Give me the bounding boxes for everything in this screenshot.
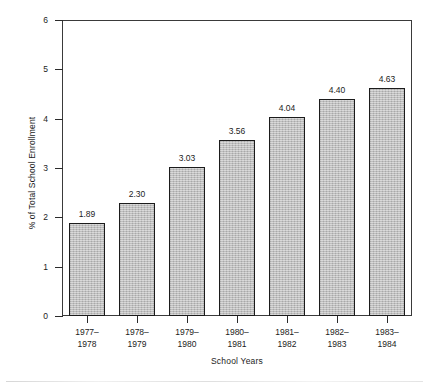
bar-value-label: 1.89 (56, 209, 118, 219)
y-axis-tick (55, 267, 63, 268)
y-axis-tick (55, 119, 63, 120)
bar (169, 167, 205, 316)
bar-value-label: 4.40 (306, 85, 368, 95)
bar-value-label: 4.04 (256, 103, 318, 113)
x-axis-tick (87, 316, 88, 323)
x-axis-tick (387, 316, 388, 323)
bar-value-label: 4.63 (356, 74, 418, 84)
y-axis-tick-label: 2 (14, 212, 48, 222)
bar-value-label: 3.56 (206, 126, 268, 136)
x-axis-tick (137, 316, 138, 323)
bar-value-label: 2.30 (106, 189, 168, 199)
y-axis-tick-label: 3 (14, 163, 48, 173)
bar (119, 203, 155, 316)
y-axis-tick (55, 69, 63, 70)
bar (269, 117, 305, 316)
x-axis-tick-label-line: 1983– (356, 327, 418, 339)
y-axis-tick (55, 316, 63, 317)
x-axis-tick (237, 316, 238, 323)
y-axis-tick-label: 1 (14, 262, 48, 272)
y-axis-tick-label: 6 (14, 15, 48, 25)
x-axis-tick (287, 316, 288, 323)
x-axis-tick-label-line: 1984 (356, 339, 418, 351)
y-axis-tick (55, 168, 63, 169)
bar-chart: % of Total School Enrollment 0123456 197… (0, 0, 429, 385)
bar-value-label: 3.03 (156, 153, 218, 163)
x-axis-tick (187, 316, 188, 323)
y-axis-tick-label: 4 (14, 114, 48, 124)
y-axis-tick (55, 20, 63, 21)
y-axis-tick-label: 0 (14, 311, 48, 321)
y-axis-title: % of Total School Enrollment (27, 68, 37, 278)
scan-artifact-line (6, 381, 423, 382)
y-axis-tick-label: 5 (14, 64, 48, 74)
bar (69, 223, 105, 316)
bar (369, 88, 405, 316)
bar (319, 99, 355, 316)
x-axis-title: School Years (62, 356, 412, 366)
bar (219, 140, 255, 316)
x-axis-tick-label: 1983–1984 (356, 327, 418, 350)
x-axis-tick (337, 316, 338, 323)
